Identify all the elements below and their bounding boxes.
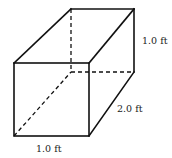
- hidden-bottom-left-edge: [14, 72, 71, 136]
- height-label: 1.0 ft: [142, 35, 168, 46]
- top-right-edge: [89, 9, 134, 63]
- width-label: 1.0 ft: [36, 143, 62, 154]
- top-left-edge: [14, 9, 71, 63]
- front-face: [14, 63, 89, 136]
- depth-label: 2.0 ft: [117, 103, 143, 114]
- hidden-edges: [14, 9, 134, 136]
- rectangular-prism-diagram: 1.0 ft 2.0 ft 1.0 ft: [0, 0, 172, 158]
